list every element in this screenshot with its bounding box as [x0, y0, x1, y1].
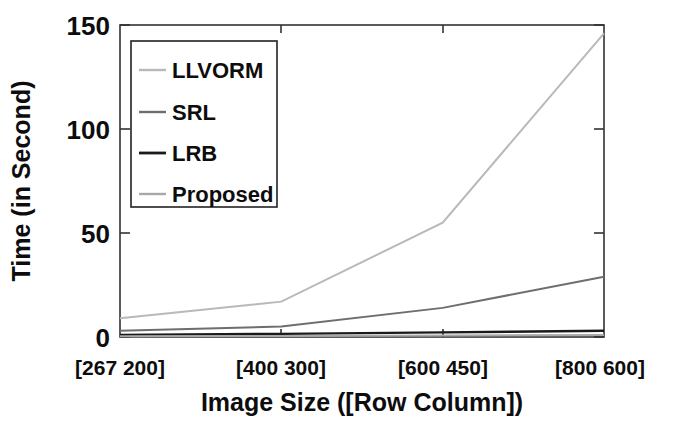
legend-label-proposed: Proposed: [172, 182, 273, 207]
x-category-label-0: [267 200]: [75, 356, 165, 379]
series-line-proposed: [120, 335, 604, 336]
y-tick-label-50: 50: [81, 219, 110, 249]
legend-label-srl: SRL: [172, 100, 216, 125]
y-tick-label-100: 100: [67, 115, 110, 145]
legend-label-llvorm: LLVORM: [172, 58, 263, 83]
x-category-label-3: [800 600]: [555, 356, 645, 379]
x-axis-title: Image Size ([Row Column]): [201, 388, 523, 416]
x-category-label-1: [400 300]: [236, 356, 326, 379]
legend-label-lrb: LRB: [172, 141, 217, 166]
y-tick-label-150: 150: [67, 11, 110, 41]
y-tick-label-0: 0: [96, 323, 110, 353]
x-category-label-2: [600 450]: [398, 356, 488, 379]
y-axis-title: Time (in Second): [7, 81, 35, 282]
time-vs-image-size-line-chart: 150 100 50 0 [267 200] [400 300] [600 45…: [0, 0, 687, 430]
legend: LLVORM SRL LRB Proposed: [131, 41, 277, 207]
